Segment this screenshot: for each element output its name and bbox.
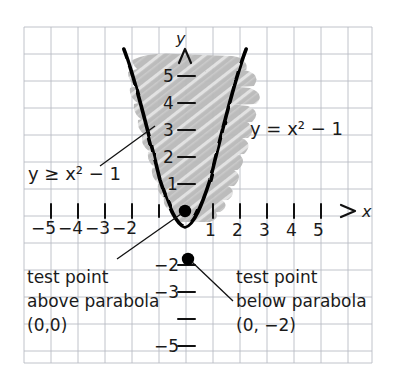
x-tick-label--4: −4 xyxy=(58,218,83,238)
graph-canvas: y x −5 −4 −3 −2 1 2 3 4 5 5 4 3 2 1 −2 −… xyxy=(0,0,398,388)
caption-above-line3: (0,0) xyxy=(27,315,67,335)
y-tick-label--2: −2 xyxy=(154,255,179,275)
caption-above-line2: above parabola xyxy=(27,291,159,311)
test-point-above-marker xyxy=(179,205,191,217)
x-tick-label-5: 5 xyxy=(313,220,324,240)
caption-below-line1: test point xyxy=(236,267,318,287)
x-tick-label-2: 2 xyxy=(232,220,243,240)
y-tick-label-2: 2 xyxy=(163,147,174,167)
equation-label: y = x² − 1 xyxy=(250,118,343,139)
inequality-graph: y x −5 −4 −3 −2 1 2 3 4 5 5 4 3 2 1 −2 −… xyxy=(0,0,398,388)
x-tick-label-1: 1 xyxy=(205,220,216,240)
x-tick-label-4: 4 xyxy=(286,220,297,240)
y-tick-label-5: 5 xyxy=(163,66,174,86)
y-tick-label-3: 3 xyxy=(163,120,174,140)
x-tick-label--5: −5 xyxy=(31,218,56,238)
caption-below-line3: (0, −2) xyxy=(236,315,296,335)
y-tick-label--5: −5 xyxy=(154,336,179,356)
x-axis-label: x xyxy=(361,202,372,221)
x-tick-label--3: −3 xyxy=(85,218,110,238)
y-tick-label-4: 4 xyxy=(163,93,174,113)
x-tick-label--2: −2 xyxy=(112,218,137,238)
x-tick-label-3: 3 xyxy=(259,220,270,240)
inequality-label: y ≥ x² − 1 xyxy=(28,163,121,184)
caption-above-line1: test point xyxy=(27,267,109,287)
y-tick-label-1: 1 xyxy=(167,174,178,194)
y-axis-label: y xyxy=(175,29,186,48)
caption-below-line2: below parabola xyxy=(236,291,367,311)
test-point-below-marker xyxy=(182,253,194,265)
